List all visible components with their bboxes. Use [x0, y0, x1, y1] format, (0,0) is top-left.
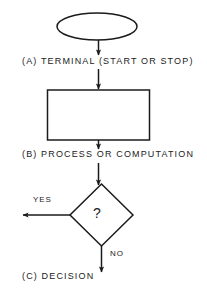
process-caption: (B) PROCESS OR COMPUTATION — [22, 150, 194, 159]
decision-question-mark: ? — [93, 206, 101, 220]
flowchart-canvas — [0, 0, 207, 291]
flowchart-diagram: (A) TERMINAL (START OR STOP) (B) PROCESS… — [0, 0, 207, 291]
branch-label-yes: YES — [33, 196, 52, 204]
terminal-caption: (A) TERMINAL (START OR STOP) — [22, 57, 194, 66]
process-symbol — [48, 90, 150, 140]
branch-label-no: NO — [110, 250, 124, 258]
decision-symbol — [70, 184, 133, 246]
decision-caption: (C) DECISION — [22, 272, 94, 281]
terminal-symbol — [57, 13, 137, 40]
